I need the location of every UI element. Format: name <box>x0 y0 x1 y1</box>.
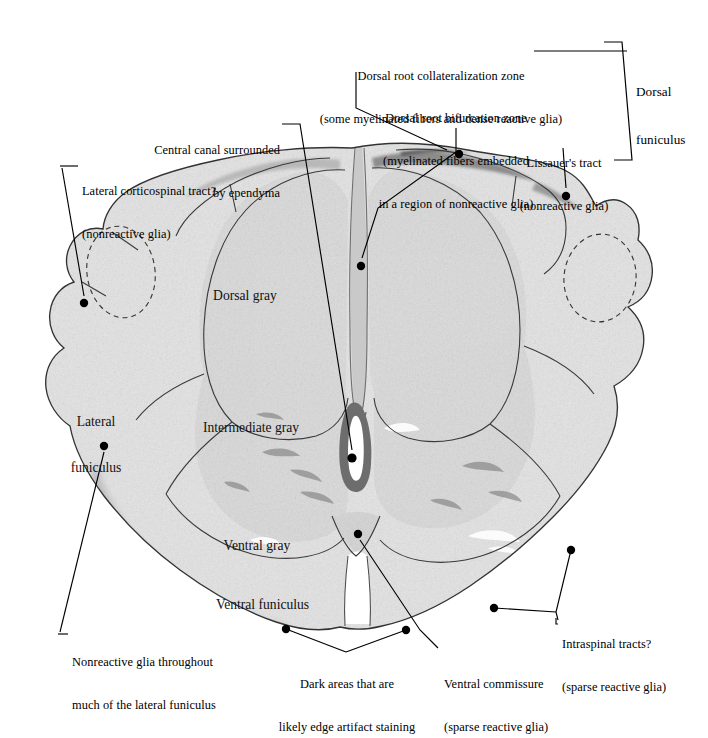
annotation-lissauers-tract: Lissauer's tract (nonreactive glia) <box>500 127 628 242</box>
tissue-label-intermediate-gray: Intermediate gray <box>166 420 336 436</box>
tissue-label-line: funiculus <box>48 460 144 475</box>
tissue-label-lateral-funiculus: Lateral funiculus <box>48 384 144 506</box>
annotation-line: Lateral corticospinal tract? <box>82 184 292 198</box>
tissue-label-ventral-gray: Ventral gray <box>192 538 322 554</box>
annotation-line: Dorsal <box>636 84 708 100</box>
tissue-label-dorsal-gray: Dorsal gray <box>180 288 310 304</box>
annotation-line: likely edge artifact staining <box>262 720 432 734</box>
annotation-intraspinal-tracts: Intraspinal tracts? (sparse reactive gli… <box>562 608 708 723</box>
annotation-dark-areas-edge-artifact: Dark areas that are likely edge artifact… <box>262 648 432 738</box>
annotation-line: much of the lateral funiculus <box>72 698 290 712</box>
annotation-line: Intraspinal tracts? <box>562 637 708 651</box>
tissue-label-ventral-funiculus: Ventral funiculus <box>180 597 345 613</box>
annotation-line: Dark areas that are <box>262 677 432 691</box>
annotation-line: (nonreactive glia) <box>82 227 292 241</box>
annotation-line: funiculus <box>636 132 708 148</box>
annotation-dorsal-funiculus: Dorsal funiculus <box>636 52 708 180</box>
annotation-line: (nonreactive glia) <box>500 199 628 213</box>
annotation-line: Nonreactive glia throughout <box>72 655 290 669</box>
annotation-line: Lissauer's tract <box>500 156 628 170</box>
annotation-nonreactive-glia-lateral-funiculus: Nonreactive glia throughout much of the … <box>72 626 290 738</box>
annotation-lateral-corticospinal-tract: Lateral corticospinal tract? (nonreactiv… <box>82 155 292 270</box>
annotation-line: Dorsal root bifurcation zone <box>368 111 544 125</box>
annotation-line: (sparse reactive glia) <box>562 680 708 694</box>
tissue-label-line: Lateral <box>48 414 144 429</box>
